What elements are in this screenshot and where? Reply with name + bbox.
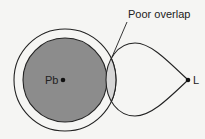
ligand-label: L	[193, 74, 199, 86]
ligand-nucleus-dot	[186, 78, 191, 83]
orbital-overlap-diagram: Poor overlap Pb L	[0, 0, 205, 139]
annotation-label: Poor overlap	[128, 8, 190, 20]
ligand-lobe	[106, 43, 188, 116]
pb-label: Pb	[45, 74, 58, 86]
pb-nucleus-dot	[61, 78, 66, 83]
annotation-leader-line	[112, 22, 127, 57]
